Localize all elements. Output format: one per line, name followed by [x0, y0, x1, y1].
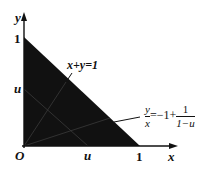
label-x-plus-y-equals-1: x+y=1: [67, 59, 98, 71]
fraction-denominator-one-minus-u: 1−u: [176, 118, 194, 129]
equation-middle: =−1+: [150, 108, 176, 122]
leader-line-ratio: [114, 117, 140, 122]
shaded-triangle-region: [24, 37, 140, 146]
origin-label: O: [15, 149, 24, 162]
y-tick-u: u: [14, 82, 21, 95]
fraction-one-over-one-minus-u: 1 1−u: [176, 104, 194, 129]
fraction-numerator-one: 1: [183, 104, 189, 115]
x-axis-label: x: [168, 150, 175, 163]
y-axis-arrowhead-icon: [21, 12, 27, 21]
triangle-region-diagram: [0, 0, 212, 170]
label-ratio-equation: y x =−1+ 1 1−u: [145, 104, 195, 129]
x-tick-u: u: [84, 149, 91, 162]
x-tick-one: 1: [136, 150, 143, 163]
y-tick-one: 1: [14, 32, 21, 45]
y-axis-label: y: [15, 11, 21, 24]
